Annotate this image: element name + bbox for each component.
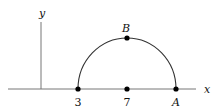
label-7: 7 [124, 96, 131, 109]
point-b [124, 35, 129, 40]
point-a [173, 86, 178, 91]
point-3 [75, 86, 80, 91]
x-axis-label: x [204, 83, 211, 96]
y-axis-label: y [38, 7, 46, 20]
point-7 [124, 86, 129, 91]
semicircle-arc [78, 38, 176, 89]
label-a: A [171, 96, 180, 109]
label-b: B [121, 22, 130, 35]
label-3: 3 [75, 96, 82, 109]
diagram-canvas: y x B 3 7 A [0, 0, 218, 112]
